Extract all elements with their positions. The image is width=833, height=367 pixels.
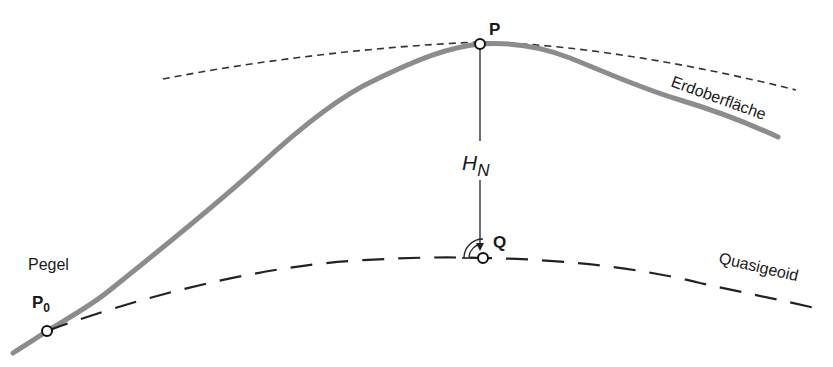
label-point-p: P <box>489 20 500 39</box>
point-p0-marker <box>42 326 52 336</box>
quasigeoid-curve <box>47 257 815 331</box>
label-erdoberflaeche: Erdoberfläche <box>669 73 769 123</box>
height-system-diagram: P Q P0 HN Pegel Erdoberfläche Quasigeoid <box>0 0 833 367</box>
point-q-marker <box>478 253 488 263</box>
earth-surface-curve <box>13 44 778 353</box>
label-point-p0: P0 <box>32 293 50 315</box>
label-point-q: Q <box>493 233 506 252</box>
label-quasigeoid: Quasigeoid <box>717 249 800 284</box>
label-normal-height: HN <box>462 151 490 180</box>
point-p-marker <box>475 39 485 49</box>
label-pegel: Pegel <box>28 256 69 273</box>
